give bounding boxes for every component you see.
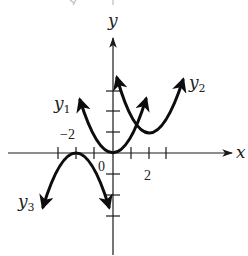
x-axis-label: x bbox=[236, 142, 246, 162]
origin-label: 0 bbox=[98, 159, 105, 174]
x-tick-label-2: 2 bbox=[144, 168, 151, 183]
clipped-top-fragment bbox=[70, 0, 113, 5]
label-y3: y3 bbox=[17, 191, 35, 214]
y-axis-label: y bbox=[107, 10, 118, 30]
curve-y2 bbox=[117, 78, 183, 133]
coordinate-graph: y x 0 2 −2 y1 y2 y3 bbox=[0, 0, 248, 256]
label-y1: y1 bbox=[53, 93, 71, 116]
label-y2: y2 bbox=[188, 72, 206, 95]
x-tick-label-neg2: −2 bbox=[60, 127, 75, 142]
